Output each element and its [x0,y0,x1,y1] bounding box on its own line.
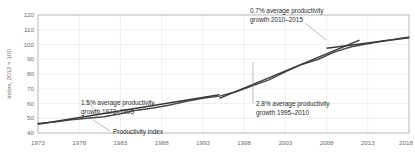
annotation-line-2: growth 1973–1995 [81,108,134,116]
annotation-line-2: growth 2010–2015 [250,16,303,24]
series-label-productivity-index: Productivity index [113,128,164,136]
annotation-line-1: 0.7% average productivity [250,7,324,15]
y-tick-label: 100 [24,41,35,48]
x-tick-label: 2008 [320,139,334,146]
x-tick-label: 1978 [72,139,86,146]
y-tick-label: 90 [27,55,34,62]
y-tick-label: 120 [24,11,35,18]
x-tick-label: 2018 [399,139,413,146]
x-tick-label: 1983 [114,139,128,146]
productivity-chart: 120 110 100 90 80 70 60 50 40 1973 1978 … [0,0,415,167]
y-tick-label: 40 [27,129,34,136]
annotation-line-1: 2.8% average productivity [256,100,330,108]
annotation-line-1: 1.5% average productivity [81,99,155,107]
annotation-line-2: growth 1995–2010 [256,109,309,117]
x-tick-label: 1973 [31,139,45,146]
y-tick-label: 80 [27,70,34,77]
y-tick-label: 50 [27,114,34,121]
x-tick-label: 2003 [278,139,292,146]
x-tick-label: 1998 [237,139,251,146]
y-tick-label: 70 [27,85,34,92]
x-tick-label: 1993 [196,139,210,146]
y-tick-label: 110 [24,26,34,33]
y-axis-title: Index, 2012 = 100 [5,49,12,99]
y-tick-label: 60 [27,100,34,107]
x-tick-label: 2013 [361,139,375,146]
chart-canvas: 120 110 100 90 80 70 60 50 40 1973 1978 … [0,0,415,167]
x-tick-label: 1988 [155,139,169,146]
